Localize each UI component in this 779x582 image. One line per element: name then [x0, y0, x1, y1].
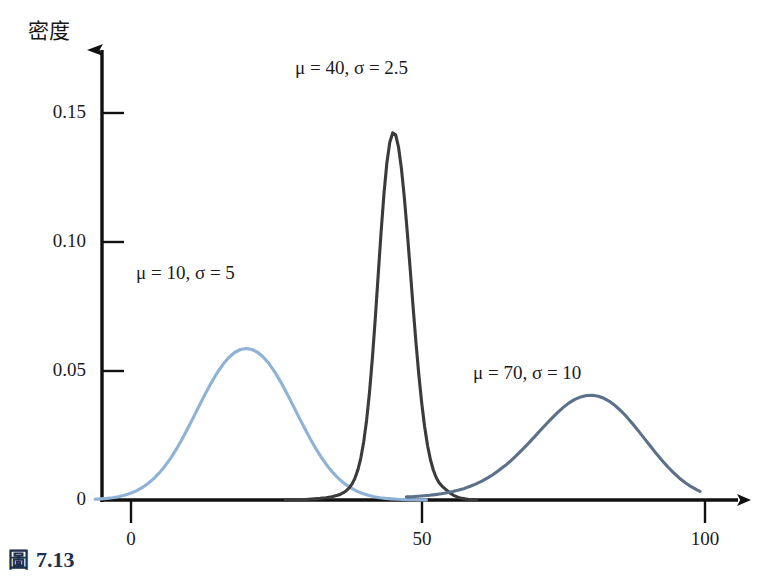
curve-2-annotation: μ = 40, σ = 2.5	[295, 57, 408, 79]
density-curve-mu70	[406, 395, 700, 497]
y-tick-label-0.10: 0.10	[22, 230, 86, 252]
y-tick-label-0: 0	[34, 488, 86, 510]
y-axis-ticks	[102, 113, 124, 371]
y-tick-label-0.05: 0.05	[22, 359, 86, 381]
x-tick-label-50: 50	[397, 528, 447, 550]
density-plot	[0, 0, 779, 582]
figure-caption: 圖 7.13	[8, 549, 75, 571]
x-tick-label-0: 0	[106, 528, 156, 550]
figure-caption-mark: 圖	[8, 550, 29, 571]
x-axis-ticks	[131, 500, 705, 523]
x-tick-label-100: 100	[678, 528, 732, 550]
curve-1-annotation: μ = 10, σ = 5	[136, 262, 235, 284]
density-curve-mu10	[95, 349, 426, 500]
figure-container: 密度 0 0.05 0.10 0.15 0 50 100 μ = 10, σ =…	[0, 0, 779, 582]
y-axis-title: 密度	[28, 14, 70, 44]
curve-3-annotation: μ = 70, σ = 10	[473, 362, 581, 384]
figure-caption-number: 7.13	[36, 549, 75, 571]
y-tick-label-0.15: 0.15	[22, 101, 86, 123]
